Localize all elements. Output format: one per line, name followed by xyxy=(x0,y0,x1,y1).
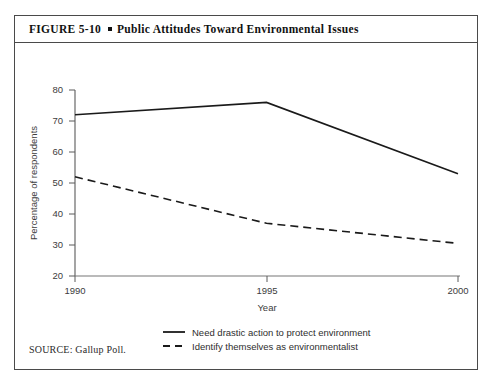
x-tick-label-1995: 1995 xyxy=(256,285,277,296)
y-tick-label-80: 80 xyxy=(52,84,63,95)
legend-label-identify-environmentalist: Identify themselves as environmentalist xyxy=(192,341,358,352)
y-tick-label-40: 40 xyxy=(52,208,63,219)
x-axis-ticks xyxy=(75,276,458,282)
x-axis-title: Year xyxy=(257,302,276,313)
x-tick-label-2000: 2000 xyxy=(447,285,468,296)
y-tick-label-30: 30 xyxy=(52,239,63,250)
series-line-identify-environmentalist xyxy=(75,177,458,244)
y-axis-ticks xyxy=(69,90,75,276)
series-line-need-drastic-action xyxy=(75,102,458,173)
chart-legend: Need drastic action to protect environme… xyxy=(163,327,371,352)
y-tick-label-20: 20 xyxy=(52,270,63,281)
square-bullet-icon xyxy=(108,27,112,31)
figure-title: FIGURE 5-10Public Attitudes Toward Envir… xyxy=(15,23,359,35)
y-tick-label-70: 70 xyxy=(52,115,63,126)
y-tick-label-50: 50 xyxy=(52,177,63,188)
figure-box: FIGURE 5-10Public Attitudes Toward Envir… xyxy=(14,15,478,370)
x-tick-label-1990: 1990 xyxy=(64,285,85,296)
figure-header: FIGURE 5-10Public Attitudes Toward Envir… xyxy=(15,16,477,43)
legend-label-need-drastic-action: Need drastic action to protect environme… xyxy=(192,327,371,338)
source-note: SOURCE: Gallup Poll. xyxy=(29,344,126,355)
chart-plot-area: 80 70 60 50 40 30 20 Percentage of respo… xyxy=(15,43,477,370)
line-chart: 80 70 60 50 40 30 20 Percentage of respo… xyxy=(15,43,477,370)
figure-number: FIGURE 5-10 xyxy=(29,23,101,35)
figure-title-text: Public Attitudes Toward Environmental Is… xyxy=(117,23,359,35)
y-axis-title: Percentage of respondents xyxy=(28,126,39,240)
y-tick-label-60: 60 xyxy=(52,146,63,157)
